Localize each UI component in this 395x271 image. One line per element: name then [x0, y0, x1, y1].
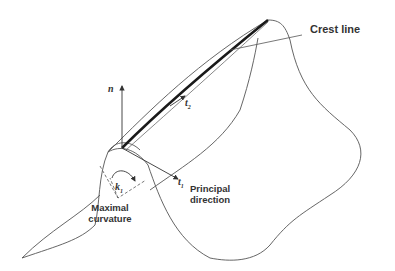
crest-parallel-line [126, 22, 268, 150]
surface-drawing [0, 0, 395, 271]
principal-direction-label: Principal direction [190, 183, 230, 205]
crest-line-diagram: Crest line n t2 t1 k1 Principal directio… [0, 0, 395, 271]
maximal-curvature-label: Maximal curvature [80, 202, 140, 224]
principal-vector-label: t1 [178, 176, 184, 189]
curvature-arc-arrow [112, 171, 135, 181]
maximal-curvature-line1: Maximal [80, 202, 140, 213]
normal-vector-symbol: n [108, 83, 114, 94]
principal-vector-subscript: 1 [181, 183, 184, 189]
curvature-symbol-label: k1 [115, 181, 123, 194]
tangent-vector-subscript: 2 [188, 104, 191, 110]
normal-vector-label: n [108, 83, 114, 94]
principal-direction-line2: direction [190, 194, 230, 205]
crest-line [122, 20, 268, 148]
principal-direction-line1: Principal [190, 183, 230, 194]
tangent-vector-label: t2 [185, 97, 191, 110]
maximal-curvature-line2: curvature [80, 213, 140, 224]
curvature-subscript: 1 [120, 188, 123, 194]
surface-outline [22, 20, 361, 260]
crest-line-label: Crest line [310, 24, 360, 35]
